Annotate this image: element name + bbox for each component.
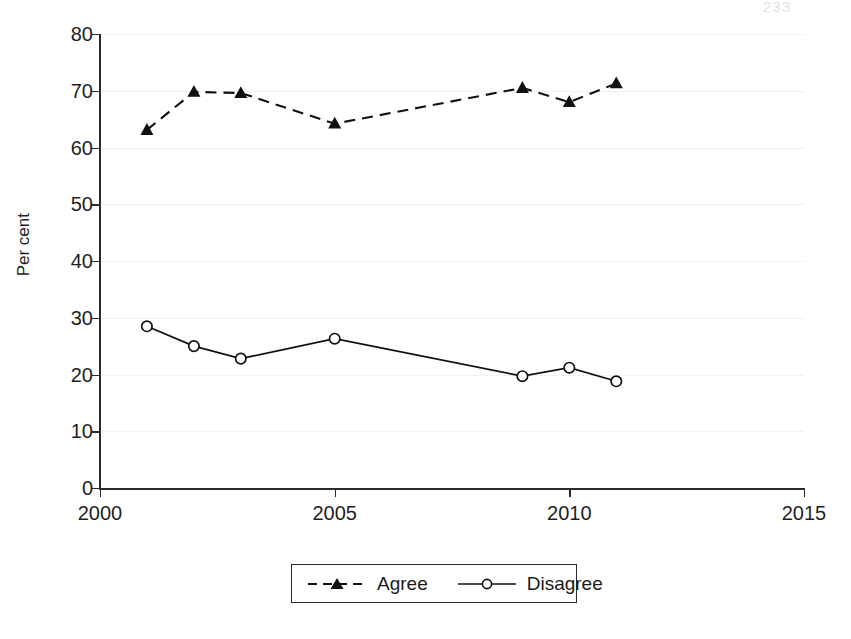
gridline xyxy=(100,148,804,149)
y-tick-label: 80 xyxy=(71,24,93,44)
y-tick-label: 40 xyxy=(71,251,93,271)
legend-entry-disagree[interactable]: Disagree xyxy=(456,565,603,602)
y-tick-label: 30 xyxy=(71,308,93,328)
y-tick-label: 70 xyxy=(71,81,93,101)
gridline xyxy=(100,431,804,432)
y-tick-label: 50 xyxy=(71,194,93,214)
x-tick-label: 2000 xyxy=(78,503,123,523)
legend-key-solid-circle xyxy=(456,576,518,592)
x-tick-mark xyxy=(100,488,101,497)
plot-area: 01020304050607080 xyxy=(100,34,804,488)
y-tick-label: 0 xyxy=(82,478,93,498)
y-axis-line xyxy=(99,34,101,490)
chart-figure: 233 01020304050607080 2000200520102015 P… xyxy=(0,0,851,639)
gridline xyxy=(100,91,804,92)
x-tick-label: 2015 xyxy=(782,503,827,523)
gridline xyxy=(100,261,804,262)
x-tick-mark xyxy=(569,488,570,497)
legend-label-disagree: Disagree xyxy=(527,573,603,595)
page-folio: 233 xyxy=(763,0,791,15)
x-tick-mark xyxy=(335,488,336,497)
y-tick-label: 20 xyxy=(71,365,93,385)
legend-key-agree-dashed-triangle xyxy=(306,576,368,592)
x-tick-mark xyxy=(804,488,805,497)
x-axis-line xyxy=(99,488,805,490)
x-tick-label: 2005 xyxy=(312,503,357,523)
gridline xyxy=(100,204,804,205)
x-tick-label: 2010 xyxy=(547,503,592,523)
y-tick-label: 10 xyxy=(71,421,93,441)
gridline xyxy=(100,318,804,319)
legend-label-agree: Agree xyxy=(377,573,428,595)
y-tick-label: 60 xyxy=(71,138,93,158)
gridline xyxy=(100,34,804,35)
legend: Agree Disagree xyxy=(291,564,577,603)
y-axis-title: Per cent xyxy=(14,213,34,276)
legend-entry-agree[interactable]: Agree xyxy=(306,565,428,602)
gridline xyxy=(100,375,804,376)
